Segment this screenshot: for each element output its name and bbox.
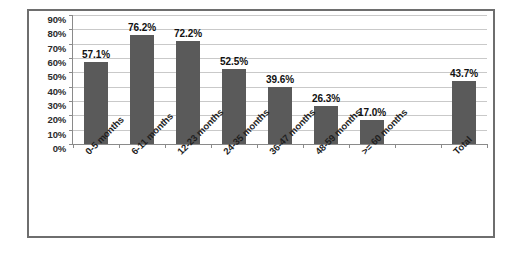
x-axis-tick-mark [303, 144, 304, 148]
x-axis-category-labels: 0-5 months6-11 months12-23 months24-35 m… [72, 149, 486, 229]
x-axis-tick-mark [349, 144, 350, 148]
y-axis-tick-label: 20% [48, 114, 66, 125]
x-axis-tick-mark [441, 144, 442, 148]
chart-plot-wrapper: 0%10%20%30%40%50%60%70%80%90% 57.1%76.2%… [29, 11, 493, 236]
bar-slot [395, 15, 441, 144]
bar-slot: 43.7% [441, 15, 487, 144]
bar-value-label: 72.2% [174, 28, 202, 39]
bar-value-label: 17.0% [358, 107, 386, 118]
bar-value-label: 76.2% [128, 22, 156, 33]
chart-plot-area: 57.1%76.2%72.2%52.5%39.6%26.3%17.0%43.7% [72, 15, 487, 145]
y-axis-tick-label: 90% [48, 14, 66, 25]
x-axis-tick-mark [395, 144, 396, 148]
bar-value-label: 26.3% [312, 93, 340, 104]
x-axis-tick-mark [257, 144, 258, 148]
x-axis-tick-mark [487, 144, 488, 148]
y-axis-tick-label: 70% [48, 42, 66, 53]
x-axis-tick-mark [73, 144, 74, 148]
y-axis-tick-label: 40% [48, 85, 66, 96]
y-axis-tick-label: 10% [48, 128, 66, 139]
y-axis-tick-label: 30% [48, 100, 66, 111]
y-axis-tick-label: 50% [48, 71, 66, 82]
x-axis-tick-mark [211, 144, 212, 148]
x-axis-tick-mark [165, 144, 166, 148]
y-axis-tick-label: 60% [48, 57, 66, 68]
bar-value-label: 43.7% [450, 68, 478, 79]
x-axis-tick-mark [119, 144, 120, 148]
bar-value-label: 57.1% [82, 49, 110, 60]
chart-frame: 0%10%20%30%40%50%60%70%80%90% 57.1%76.2%… [27, 9, 495, 238]
y-axis-tick-label: 0% [53, 143, 66, 154]
y-axis-tick-labels: 0%10%20%30%40%50%60%70%80%90% [29, 15, 69, 144]
bar-value-label: 52.5% [220, 56, 248, 67]
bar-value-label: 39.6% [266, 74, 294, 85]
bars-layer: 57.1%76.2%72.2%52.5%39.6%26.3%17.0%43.7% [73, 15, 487, 144]
y-axis-tick-label: 80% [48, 28, 66, 39]
